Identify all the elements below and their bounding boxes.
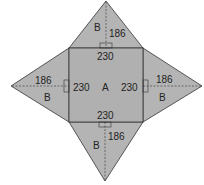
label-right-height: 186 bbox=[156, 74, 173, 85]
label-right-face: B bbox=[159, 92, 166, 103]
label-left-base: 230 bbox=[73, 82, 90, 93]
label-right-base: 230 bbox=[121, 82, 138, 93]
label-base-square: A bbox=[102, 82, 109, 93]
face-right bbox=[143, 48, 202, 122]
label-top-base: 230 bbox=[97, 51, 114, 62]
pyramid-net-diagram: B 186 230 186 B 230 A 230 186 B 230 186 … bbox=[0, 0, 204, 185]
label-left-height: 186 bbox=[35, 75, 52, 86]
label-top-height: 186 bbox=[109, 28, 126, 39]
label-bottom-height: 186 bbox=[108, 131, 125, 142]
face-bottom bbox=[69, 122, 143, 181]
label-left-face: B bbox=[44, 92, 51, 103]
label-top-face: B bbox=[94, 22, 101, 33]
label-bottom-face: B bbox=[93, 140, 100, 151]
label-bottom-base: 230 bbox=[97, 110, 114, 121]
